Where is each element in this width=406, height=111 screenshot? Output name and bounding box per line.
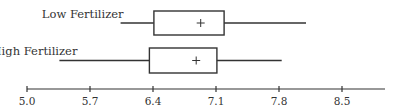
iqr-box — [149, 48, 217, 73]
box-plot-high-fertilizer: High Fertilizer — [0, 44, 282, 73]
tick-label: 7.1 — [208, 95, 225, 107]
iqr-box — [154, 11, 224, 35]
tick-label: 6.4 — [145, 95, 162, 107]
series-label: Low Fertilizer — [42, 7, 124, 21]
tick-label: 7.8 — [271, 95, 288, 107]
series-label: High Fertilizer — [0, 44, 78, 58]
x-axis: 5.05.76.47.17.88.5 — [19, 86, 385, 107]
boxplot-chart: Low FertilizerHigh Fertilizer 5.05.76.47… — [0, 0, 406, 111]
box-plots: Low FertilizerHigh Fertilizer — [0, 7, 306, 73]
tick-label: 5.0 — [19, 95, 36, 107]
tick-label: 8.5 — [334, 95, 351, 107]
box-plot-low-fertilizer: Low Fertilizer — [42, 7, 306, 35]
tick-label: 5.7 — [82, 95, 99, 107]
